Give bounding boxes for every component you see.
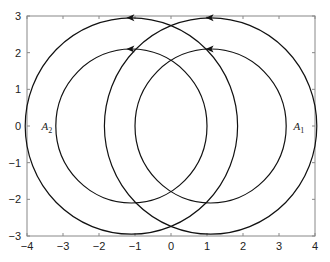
chart: −4−3−2−101234 −3−2−10123 A2A1 xyxy=(0,0,330,262)
y-tick-label: −2 xyxy=(8,193,21,205)
x-tick-label: −2 xyxy=(93,240,106,252)
x-tick-labels: −4−3−2−101234 xyxy=(21,240,318,252)
y-tick-label: 0 xyxy=(15,120,21,132)
x-tick-label: 2 xyxy=(240,240,246,252)
y-tick-label: 3 xyxy=(15,10,21,22)
x-tick-label: −1 xyxy=(129,240,142,252)
y-tick-labels: −3−2−10123 xyxy=(8,10,21,242)
x-tick-label: −3 xyxy=(57,240,70,252)
x-tick-label: 4 xyxy=(312,240,318,252)
x-tick-label: 0 xyxy=(168,240,174,252)
x-tick-label: 3 xyxy=(276,240,282,252)
y-tick-label: −3 xyxy=(8,230,21,242)
y-tick-label: −1 xyxy=(8,157,21,169)
x-tick-label: 1 xyxy=(204,240,210,252)
plot-area xyxy=(27,16,315,236)
y-tick-label: 1 xyxy=(15,83,21,95)
y-tick-label: 2 xyxy=(15,47,21,59)
x-tick-label: −4 xyxy=(21,240,34,252)
